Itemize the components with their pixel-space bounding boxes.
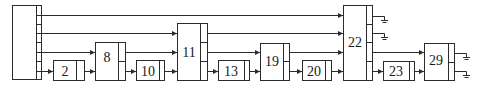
- block-20: 20: [303, 61, 332, 81]
- arrow-head-icon: [338, 50, 343, 55]
- block-label: 2: [62, 64, 69, 79]
- arrow-head-icon: [131, 69, 136, 74]
- arrow-head-icon: [338, 69, 343, 74]
- arrow-head-icon: [338, 31, 343, 36]
- arrow-head-icon: [172, 69, 177, 74]
- arrow-head-icon: [338, 13, 343, 18]
- block-label: 29: [429, 53, 443, 68]
- block-label: 11: [182, 45, 195, 60]
- block-label: 10: [141, 64, 155, 79]
- block-label: 22: [348, 35, 362, 50]
- block-22: 22: [344, 6, 373, 81]
- block-label: 19: [265, 54, 279, 69]
- arrow-head-icon: [90, 69, 95, 74]
- source-block: [13, 6, 42, 80]
- arrow-head-icon: [419, 50, 424, 55]
- block-2: 2: [54, 61, 85, 81]
- arrow-head-icon: [255, 50, 260, 55]
- block-13: 13: [219, 61, 250, 81]
- block-label: 23: [389, 64, 403, 79]
- block-diagram: 2 8 10 11 13 19 20: [0, 0, 478, 89]
- block-label: 20: [307, 64, 321, 79]
- block-19: 19: [261, 44, 290, 81]
- block-11: 11: [178, 24, 208, 81]
- arrow-head-icon: [419, 69, 424, 74]
- block-23: 23: [384, 62, 415, 81]
- arrow-head-icon: [255, 69, 260, 74]
- block-label: 13: [224, 64, 238, 79]
- block-29: 29: [425, 44, 455, 81]
- arrow-head-icon: [90, 50, 95, 55]
- arrow-head-icon: [378, 69, 383, 74]
- arrow-head-icon: [213, 69, 218, 74]
- block-8: 8: [96, 43, 126, 81]
- arrow-head-icon: [172, 50, 177, 55]
- block-label: 8: [104, 50, 111, 65]
- arrow-head-icon: [48, 69, 53, 74]
- arrow-head-icon: [172, 31, 177, 36]
- block-10: 10: [137, 61, 165, 81]
- arrow-head-icon: [297, 69, 302, 74]
